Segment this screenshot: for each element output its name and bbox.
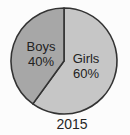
slice-label-girls-name: Girls xyxy=(62,51,110,66)
pie-chart-figure: Boys 40% Girls 60% 2015 xyxy=(0,0,130,135)
slice-label-girls-pct: 60% xyxy=(62,66,110,81)
slice-label-boys-pct: 40% xyxy=(15,54,67,69)
slice-label-boys: Boys 40% xyxy=(15,39,67,69)
slice-label-girls: Girls 60% xyxy=(62,51,110,81)
chart-caption-year: 2015 xyxy=(42,116,102,132)
slice-label-boys-name: Boys xyxy=(15,39,67,54)
